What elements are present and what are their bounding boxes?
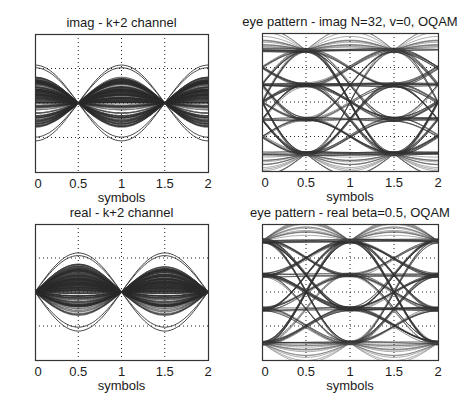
plot-area bbox=[0, 0, 458, 409]
x-tick-label: 0.5 bbox=[291, 364, 321, 379]
x-tick-label: 1.5 bbox=[379, 364, 409, 379]
x-tick-label: 1 bbox=[335, 364, 365, 379]
grid bbox=[262, 224, 438, 360]
x-axis-label: symbols bbox=[262, 378, 438, 393]
x-tick-label: 0 bbox=[250, 364, 280, 379]
x-tick-label: 2 bbox=[423, 364, 453, 379]
